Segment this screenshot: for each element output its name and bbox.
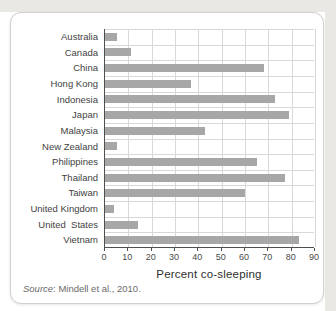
tick-label: 40 [186, 252, 208, 262]
bar-chart-plot-area [104, 29, 314, 248]
tick-label: 70 [256, 252, 278, 262]
bar [105, 33, 117, 41]
bar [105, 95, 275, 103]
category-label: United States [11, 217, 98, 233]
tick-label: 0 [93, 252, 115, 262]
gridline-vertical [268, 29, 269, 247]
tick-mark [151, 248, 152, 251]
gridline-horizontal [105, 232, 314, 233]
gridline-vertical [315, 29, 316, 247]
bar [105, 111, 289, 119]
bar [105, 189, 245, 197]
tick-label: 20 [140, 252, 162, 262]
gridline-horizontal [105, 123, 314, 124]
category-label: Hong Kong [11, 76, 98, 92]
category-label: China [11, 60, 98, 76]
gridline-vertical [128, 29, 129, 247]
category-label: Canada [11, 45, 98, 61]
tick-label: 10 [116, 252, 138, 262]
category-label: New Zealand [11, 139, 98, 155]
gridline-vertical [245, 29, 246, 247]
category-label: Philippines [11, 154, 98, 170]
gridline-horizontal [105, 185, 314, 186]
gridline-horizontal [105, 60, 314, 61]
gridline-horizontal [105, 107, 314, 108]
tick-mark [174, 248, 175, 251]
gridline-horizontal [105, 139, 314, 140]
tick-mark [314, 248, 315, 251]
source-note: Source: Mindell et al., 2010. [23, 283, 141, 294]
tick-mark [104, 248, 105, 251]
tick-mark [291, 248, 292, 251]
bar [105, 205, 114, 213]
gridline-horizontal [105, 76, 314, 77]
source-word: Source [23, 283, 53, 294]
gridline-horizontal [105, 45, 314, 46]
gridline-horizontal [105, 29, 314, 30]
page-edge-top [0, 0, 336, 12]
tick-label: 50 [210, 252, 232, 262]
x-axis: 0102030405060708090 [104, 252, 314, 264]
bar [105, 127, 205, 135]
gridline-horizontal [105, 154, 314, 155]
bar [105, 142, 117, 150]
tick-label: 90 [303, 252, 325, 262]
gridline-vertical [292, 29, 293, 247]
bar [105, 174, 285, 182]
tick-mark [127, 248, 128, 251]
figure-panel: AustraliaCanadaChinaHong KongIndonesiaJa… [10, 12, 324, 304]
category-label: Taiwan [11, 185, 98, 201]
category-label: Australia [11, 29, 98, 45]
tick-label: 30 [163, 252, 185, 262]
tick-label: 80 [280, 252, 302, 262]
tick-label: 60 [233, 252, 255, 262]
tick-mark [197, 248, 198, 251]
tick-mark [267, 248, 268, 251]
category-label: Indonesia [11, 92, 98, 108]
gridline-vertical [152, 29, 153, 247]
page-edge-right [325, 0, 336, 311]
bar [105, 80, 191, 88]
gridline-horizontal [105, 217, 314, 218]
bar [105, 158, 257, 166]
gridline-vertical [198, 29, 199, 247]
category-label: Vietnam [11, 232, 98, 248]
gridline-horizontal [105, 201, 314, 202]
category-label: United Kingdom [11, 201, 98, 217]
category-label: Thailand [11, 170, 98, 186]
x-axis-label: Percent co-sleeping [104, 268, 314, 280]
gridline-horizontal [105, 92, 314, 93]
bar [105, 236, 299, 244]
gridline-vertical [175, 29, 176, 247]
category-label: Japan [11, 107, 98, 123]
bar [105, 48, 131, 56]
tick-mark [221, 248, 222, 251]
source-text: : Mindell et al., 2010. [53, 283, 141, 294]
bar [105, 221, 138, 229]
gridline-vertical [222, 29, 223, 247]
category-label: Malaysia [11, 123, 98, 139]
tick-mark [244, 248, 245, 251]
gridline-horizontal [105, 170, 314, 171]
bar [105, 64, 264, 72]
